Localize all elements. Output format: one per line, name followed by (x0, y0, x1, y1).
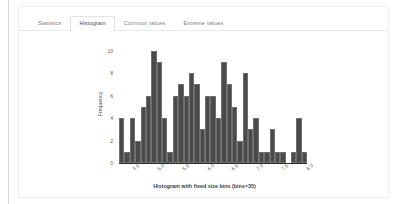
left-divider (8, 0, 9, 204)
y-tick-label: 6 (110, 93, 113, 99)
profile-panel: StatisticsHistogramCommon valuesExtreme … (18, 6, 389, 198)
y-axis-label-text: Frequency (97, 92, 103, 117)
histogram-chart: Frequency 0246810 4.55.05.56.06.57.07.58… (19, 31, 390, 199)
tab-bar: StatisticsHistogramCommon valuesExtreme … (19, 13, 388, 31)
plot-area (119, 45, 307, 163)
tab-histogram[interactable]: Histogram (70, 16, 114, 31)
y-tick-label: 10 (107, 48, 113, 54)
bar-series (119, 45, 307, 163)
tab-common-values[interactable]: Common values (115, 16, 175, 31)
x-axis-title: Histogram with fixed size bins (bins=35) (19, 183, 390, 189)
y-tick-label: 4 (110, 115, 113, 121)
tab-extreme-values[interactable]: Extreme values (175, 16, 233, 31)
screenshot-root: StatisticsHistogramCommon valuesExtreme … (0, 0, 413, 204)
y-axis-label: Frequency (95, 45, 105, 163)
tab-statistics[interactable]: Statistics (29, 16, 70, 31)
y-tick-label: 8 (110, 70, 113, 76)
y-tick-label: 2 (110, 138, 113, 144)
histogram-bar (302, 152, 307, 163)
y-tick-label: 0 (110, 160, 113, 166)
